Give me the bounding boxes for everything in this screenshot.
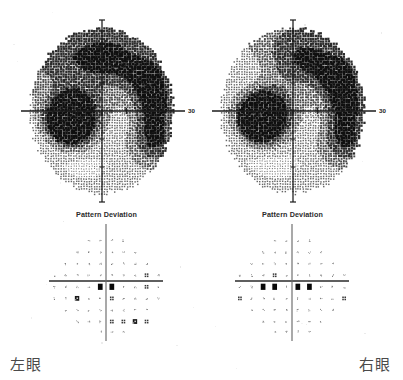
pattern-deviation-point xyxy=(123,298,125,300)
pattern-deviation-point xyxy=(307,284,312,290)
pattern-deviation-point xyxy=(157,298,159,300)
pattern-deviation-point xyxy=(308,252,310,254)
pattern-deviation-point xyxy=(76,286,78,288)
pattern-deviation-point xyxy=(65,286,66,288)
pattern-deviation-point xyxy=(275,331,277,332)
pattern-deviation-point xyxy=(295,284,300,290)
pattern-deviation-point xyxy=(88,275,90,277)
pattern-deviation-point xyxy=(263,297,265,299)
pattern-deviation-point xyxy=(53,286,55,288)
pattern-deviation-point xyxy=(146,309,148,310)
pattern-deviation-point xyxy=(274,240,276,241)
pattern-deviation-point xyxy=(77,309,79,311)
grayscale-axis-label: 30 xyxy=(379,107,386,114)
pattern-deviation-point xyxy=(134,275,136,277)
grayscale-map-right-eye: 30 xyxy=(205,12,390,210)
pattern-deviation-point xyxy=(272,284,277,290)
pattern-deviation-point xyxy=(309,239,311,242)
pattern-deviation-point xyxy=(88,240,90,241)
eye-label-right: 右眼 xyxy=(359,353,391,374)
pattern-deviation-point xyxy=(320,321,321,322)
pattern-deviation-point xyxy=(158,287,159,288)
pattern-deviation-point xyxy=(99,240,101,241)
pattern-deviation-point xyxy=(98,284,103,290)
pattern-deviation-point xyxy=(145,273,149,277)
pattern-deviation-point xyxy=(158,274,160,276)
pattern-deviation-point xyxy=(239,286,241,288)
pattern-deviation-point xyxy=(122,239,123,241)
pattern-deviation-point xyxy=(297,263,299,265)
pattern-deviation-point xyxy=(111,310,113,312)
pattern-deviation-point xyxy=(134,252,136,253)
pattern-deviation-point xyxy=(297,241,298,243)
pattern-deviation-point xyxy=(134,298,136,300)
pattern-deviation-point xyxy=(122,251,124,252)
pattern-deviation-point xyxy=(64,274,66,276)
pattern-deviation-point xyxy=(65,297,66,299)
pattern-deviation-point xyxy=(286,331,288,333)
pattern-deviation-point xyxy=(99,263,101,265)
pattern-deviation-point xyxy=(320,298,322,299)
pattern-deviation-point xyxy=(320,286,323,288)
pattern-deviation-point xyxy=(298,330,299,332)
grayscale-svg-left: 30 xyxy=(14,12,199,210)
pattern-deviation-point xyxy=(309,275,310,277)
pattern-deviation-point xyxy=(332,286,333,288)
pattern-deviation-point xyxy=(76,251,79,253)
pattern-deviation-point xyxy=(285,241,287,242)
pattern-deviation-point xyxy=(77,274,79,276)
pattern-deviation-point xyxy=(262,263,264,264)
pattern-deviation-point xyxy=(309,331,311,332)
eye-label-left: 左眼 xyxy=(10,353,42,374)
pattern-deviation-point xyxy=(110,297,114,301)
pattern-deviation-point xyxy=(286,275,288,276)
pattern-deviation-point xyxy=(99,298,100,299)
pattern-deviation-point xyxy=(134,263,136,265)
pattern-deviation-point xyxy=(274,309,276,311)
pattern-deviation-point xyxy=(145,285,149,289)
pattern-deviation-point xyxy=(262,321,264,323)
grayscale-axis-label: 30 xyxy=(188,107,195,114)
pattern-deviation-point xyxy=(250,263,252,265)
pattern-deviation-point xyxy=(88,287,90,288)
pattern-deviation-point xyxy=(251,286,253,289)
pattern-deviation-title-left: Pattern Deviation xyxy=(14,210,199,219)
pattern-deviation-point xyxy=(238,297,242,301)
pattern-deviation-point xyxy=(320,274,322,276)
pattern-deviation-point xyxy=(286,309,287,310)
pattern-deviation-point xyxy=(123,263,124,265)
pattern-deviation-point xyxy=(343,274,345,275)
pattern-deviation-point xyxy=(309,298,311,300)
pattern-deviation-point xyxy=(286,263,287,265)
pattern-deviation-point xyxy=(134,309,136,310)
pattern-deviation-point xyxy=(112,252,113,253)
pattern-deviation-point xyxy=(145,320,149,324)
pattern-deviation-point xyxy=(89,263,90,265)
pattern-deviation-point xyxy=(297,251,299,253)
pattern-deviation-point xyxy=(320,251,322,253)
pattern-deviation-point xyxy=(123,309,125,312)
pattern-deviation-right-eye: Pattern Deviation xyxy=(200,210,385,345)
pattern-deviation-point xyxy=(262,251,264,253)
pattern-deviation-point xyxy=(76,321,79,324)
pattern-deviation-point xyxy=(331,299,333,300)
pattern-deviation-point xyxy=(342,297,346,301)
grayscale-map-left-eye: 30 xyxy=(14,12,199,210)
pattern-deviation-point xyxy=(286,286,287,288)
pattern-deviation-point xyxy=(100,252,102,254)
pattern-deviation-point xyxy=(333,309,334,311)
pattern-deviation-point xyxy=(285,321,286,323)
pattern-deviation-point xyxy=(111,263,113,265)
pattern-deviation-point xyxy=(308,263,310,265)
pattern-deviation-point xyxy=(252,310,253,311)
pattern-deviation-point xyxy=(262,275,264,277)
pattern-deviation-point xyxy=(146,263,148,265)
pattern-deviation-svg-right xyxy=(200,221,385,345)
pattern-deviation-point xyxy=(297,297,298,299)
pattern-deviation-point xyxy=(88,321,91,323)
pattern-deviation-left-eye: Pattern Deviation xyxy=(14,210,199,345)
pattern-deviation-point xyxy=(133,319,137,324)
pattern-deviation-point xyxy=(100,309,102,311)
pattern-deviation-point xyxy=(251,298,253,300)
pattern-deviation-point xyxy=(321,263,323,264)
